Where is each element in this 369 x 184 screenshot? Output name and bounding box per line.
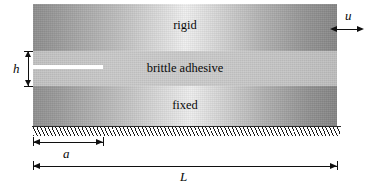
- displacement-arrow-shaft: [333, 29, 360, 30]
- layer-label-fixed: fixed: [33, 99, 337, 112]
- crack-dim-shaft: [33, 142, 103, 143]
- crack-length-symbol-a: a: [63, 147, 70, 160]
- length-dim-tick-right: [337, 161, 338, 170]
- thickness-tick-bottom: [24, 86, 33, 87]
- length-dim-shaft: [33, 166, 337, 167]
- layer-rigid: rigid: [33, 4, 337, 51]
- fixed-support-hatching: [33, 127, 340, 136]
- displacement-arrowhead-left: [330, 26, 337, 32]
- layer-fixed: fixed: [33, 86, 337, 127]
- thickness-tick-top: [24, 51, 33, 52]
- thickness-arrowhead-down: [25, 80, 31, 86]
- crack-dim-arrowhead-right: [96, 139, 103, 145]
- displacement-arrowhead-right: [357, 26, 364, 32]
- pre-crack-line: [33, 65, 103, 69]
- adhesive-joint-figure: rigid brittle adhesive fixed u h a L: [0, 0, 369, 184]
- length-dim-arrowhead-right: [330, 163, 337, 169]
- displacement-symbol-u: u: [345, 9, 352, 22]
- thickness-symbol-h: h: [13, 62, 20, 75]
- crack-dim-tick-right: [103, 137, 104, 146]
- length-dim-arrowhead-left: [33, 163, 40, 169]
- layer-label-rigid: rigid: [33, 19, 337, 32]
- crack-dim-arrowhead-left: [33, 139, 40, 145]
- total-length-symbol-L: L: [180, 170, 187, 183]
